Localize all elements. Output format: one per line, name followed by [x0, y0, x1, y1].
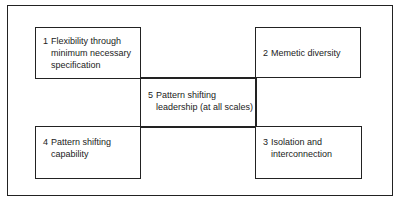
- box-1-line-1: Flexibility through: [51, 35, 121, 47]
- box-3-number: 3: [263, 136, 268, 148]
- box-3-line-1: Isolation and: [271, 136, 322, 148]
- box-3-isolation-interconnection: 3 Isolation and interconnection: [255, 126, 362, 179]
- box-5-number: 5: [148, 89, 153, 101]
- box-2-memetic-diversity: 2 Memetic diversity: [255, 27, 361, 78]
- box-5-line-2: leadership (at all scales): [156, 101, 253, 113]
- center-left-line: [140, 77, 142, 128]
- box-1-number: 1: [43, 35, 48, 47]
- center-top-line: [140, 77, 256, 79]
- box-2-line-1: Memetic diversity: [271, 47, 341, 59]
- box-4-number: 4: [43, 136, 48, 148]
- box-1-line-3: specification: [51, 59, 101, 71]
- box-1-line-2: minimum necessary: [51, 47, 131, 59]
- box-3-line-2: interconnection: [271, 148, 332, 160]
- box-4-pattern-shifting-capability: 4 Pattern shifting capability: [35, 126, 141, 179]
- center-bottom-line: [140, 126, 256, 128]
- center-right-line: [255, 77, 257, 128]
- box-5-line-1: Pattern shifting: [156, 89, 216, 101]
- box-1-flexibility: 1 Flexibility through minimum necessary …: [35, 27, 141, 79]
- box-2-number: 2: [263, 47, 268, 59]
- box-4-line-2: capability: [51, 148, 89, 160]
- box-4-line-1: Pattern shifting: [51, 136, 111, 148]
